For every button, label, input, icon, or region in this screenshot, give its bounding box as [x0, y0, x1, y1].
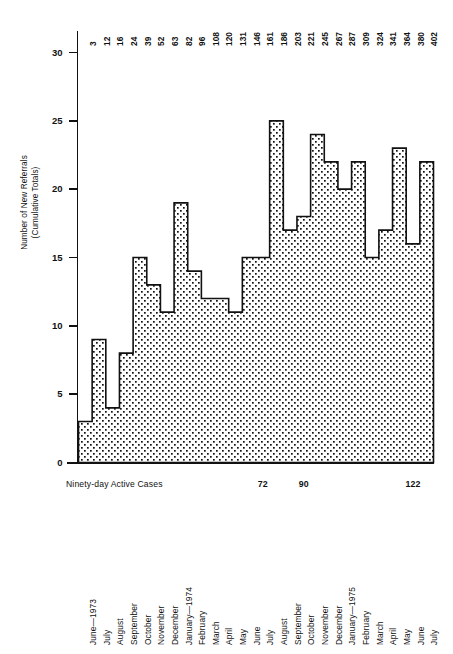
y-axis-tick-label: 10: [37, 320, 63, 331]
step-area-plot: [0, 0, 453, 654]
cumulative-total-label: 24: [130, 37, 139, 46]
cumulative-total-label: 131: [239, 32, 248, 46]
month-axis-label: November: [321, 606, 330, 645]
y-axis-tick-label: 15: [37, 252, 63, 263]
month-axis-label: September: [130, 603, 139, 645]
month-axis-label: June—1973: [89, 599, 98, 645]
cumulative-total-label: 221: [307, 32, 316, 46]
y-axis-tick-label: 5: [37, 388, 63, 399]
y-axis-tick-label: 30: [37, 47, 63, 58]
cumulative-total-label: 245: [321, 32, 330, 46]
cumulative-total-label: 267: [335, 32, 344, 46]
cumulative-total-label: 161: [266, 32, 275, 46]
month-axis-label: November: [157, 606, 166, 645]
active-case-value: 72: [251, 479, 275, 489]
cumulative-total-label: 402: [430, 32, 439, 46]
cumulative-total-label: 324: [376, 32, 385, 46]
month-axis-label: September: [294, 603, 303, 645]
month-axis-label: December: [335, 606, 344, 645]
active-cases-caption: Ninety-day Active Cases: [66, 479, 163, 489]
month-axis-label: January—1974: [185, 587, 194, 645]
cumulative-total-label: 16: [116, 37, 125, 46]
y-axis-tick-mark: [69, 325, 78, 327]
month-axis-label: March: [212, 621, 221, 645]
cumulative-total-label: 96: [198, 37, 207, 46]
month-axis-label: August: [116, 618, 125, 645]
y-axis-tick-label: 25: [37, 115, 63, 126]
month-axis-label: December: [171, 606, 180, 645]
month-axis-label: March: [376, 621, 385, 645]
y-axis-line: [77, 31, 79, 464]
y-axis-tick-label: 0: [37, 457, 63, 468]
month-axis-label: July: [103, 630, 112, 645]
month-axis-label: October: [307, 615, 316, 646]
month-axis-label: July: [430, 630, 439, 645]
y-axis-tick-mark: [69, 393, 78, 395]
cumulative-total-label: 108: [212, 32, 221, 46]
month-axis-label: June: [253, 626, 262, 645]
active-case-value: 90: [292, 479, 316, 489]
month-axis-label: July: [266, 630, 275, 645]
cumulative-total-label: 380: [417, 32, 426, 46]
y-axis-tick-mark: [69, 462, 78, 464]
month-axis-label: May: [403, 629, 412, 645]
month-axis-label: June: [417, 626, 426, 645]
month-axis-label: February: [198, 611, 207, 645]
cumulative-total-label: 63: [171, 37, 180, 46]
cumulative-total-label: 287: [348, 32, 357, 46]
cumulative-total-label: 120: [225, 32, 234, 46]
y-axis-tick-mark: [69, 257, 78, 259]
cumulative-total-label: 12: [103, 37, 112, 46]
month-axis-label: May: [239, 629, 248, 645]
cumulative-total-label: 52: [157, 37, 166, 46]
cumulative-total-label: 3: [89, 41, 98, 46]
active-case-value: 122: [401, 479, 425, 489]
month-axis-label: April: [225, 628, 234, 645]
cumulative-total-label: 341: [389, 32, 398, 46]
cumulative-total-label: 146: [253, 32, 262, 46]
cumulative-total-label: 364: [403, 32, 412, 46]
month-axis-label: February: [362, 611, 371, 645]
step-area-path: [79, 121, 434, 463]
cumulative-total-label: 203: [294, 32, 303, 46]
cumulative-total-label: 82: [185, 37, 194, 46]
x-axis-line: [67, 462, 434, 464]
y-axis-tick-mark: [69, 188, 78, 190]
y-axis-tick-mark: [69, 52, 78, 54]
cumulative-total-label: 39: [144, 37, 153, 46]
month-axis-label: August: [280, 618, 289, 645]
cumulative-total-label: 186: [280, 32, 289, 46]
y-axis-tick-mark: [69, 120, 78, 122]
month-axis-label: January—1975: [348, 587, 357, 645]
referrals-step-chart: Number of New Referrals (Cumulative Tota…: [0, 0, 453, 654]
cumulative-total-label: 309: [362, 32, 371, 46]
month-axis-label: April: [389, 628, 398, 645]
y-axis-tick-label: 20: [37, 183, 63, 194]
month-axis-label: October: [144, 615, 153, 646]
